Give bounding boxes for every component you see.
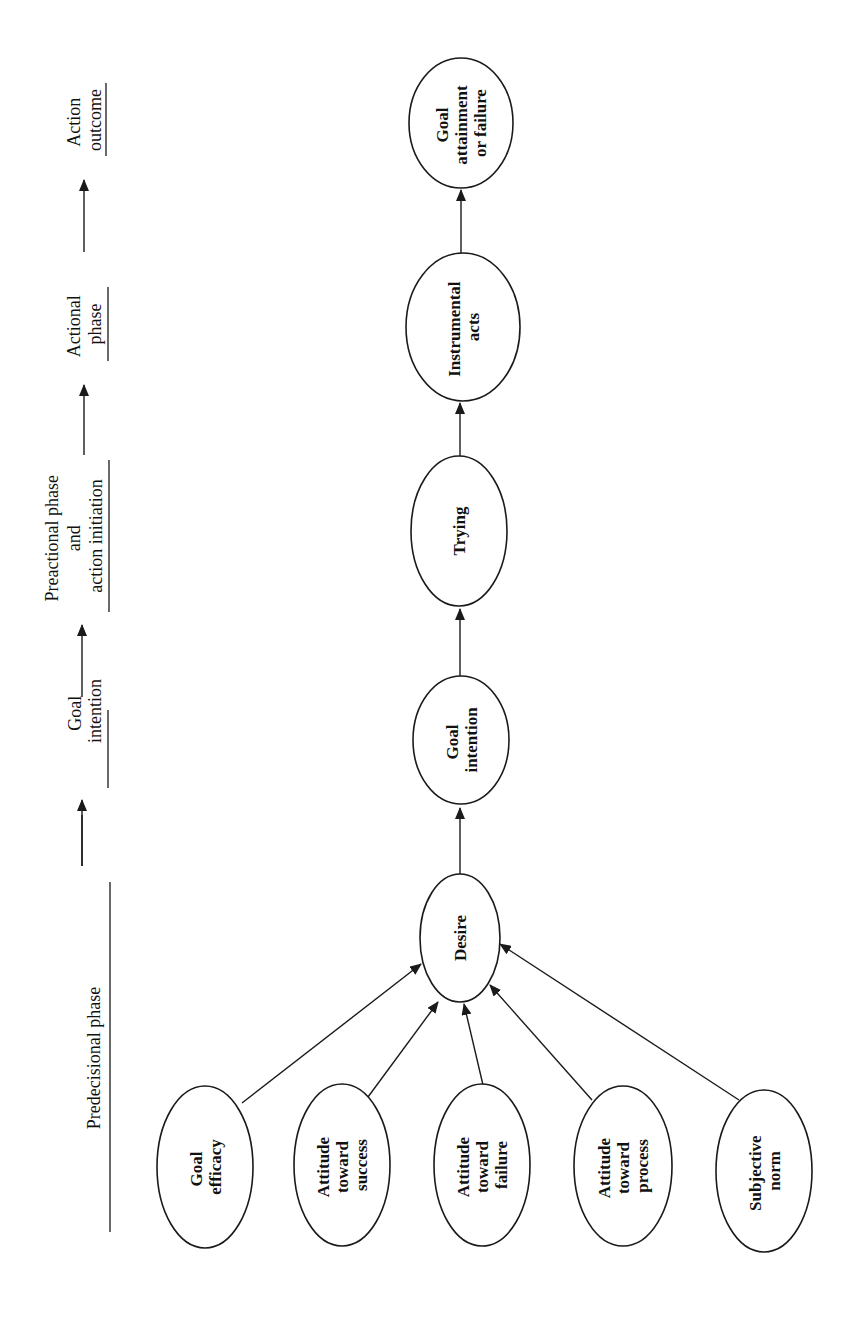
node-attitude-toward-success: Attitude toward success <box>294 1084 390 1246</box>
edge-subjective-norm-to-desire <box>500 944 739 1100</box>
node-goal-attainment: Goal attainment or failure <box>409 58 513 188</box>
phase-axis: Predecisional phase Goal intention Preac… <box>42 83 110 1232</box>
node-subjective-norm: Subjective norm <box>716 1090 812 1252</box>
goal-directed-behavior-diagram: Predecisional phase Goal intention Preac… <box>0 0 842 1325</box>
svg-text:Attitude toward su: Attitude toward success <box>314 1133 371 1198</box>
edge-attitude-failure-to-desire <box>464 1004 483 1085</box>
phase-actional: Actional phase <box>64 287 108 361</box>
phase-label-actional: Actional phase <box>64 291 105 357</box>
phase-preactional: Preactional phase and action initiation <box>42 460 109 612</box>
node-desire: Desire <box>420 874 500 1002</box>
phase-predecisional: Predecisional phase <box>84 882 110 1232</box>
phase-label-preactional: Preactional phase and action initiation <box>42 471 106 602</box>
node-goal-intention: Goal intention <box>413 676 509 804</box>
phase-label-goal-intention: Goal intention <box>65 679 105 743</box>
svg-text:Attitude toward fa: Attitude toward failure <box>454 1133 511 1198</box>
phase-label-predecisional: Predecisional phase <box>84 987 104 1129</box>
edge-attitude-success-to-desire <box>368 1002 438 1097</box>
phase-action-outcome: Action outcome <box>64 83 106 156</box>
phase-goal-intention: Goal intention <box>65 679 108 788</box>
svg-text:Attitude toward pr: Attitude toward process <box>595 1134 652 1199</box>
node-instrumental-acts: Instrumental acts <box>406 253 520 401</box>
node-goal-efficacy: Goal efficacy <box>157 1086 253 1248</box>
edge-attitude-process-to-desire <box>490 985 592 1100</box>
svg-text:Trying: Trying <box>450 506 469 555</box>
node-attitude-toward-process: Attitude toward process <box>574 1086 672 1246</box>
node-attitude-toward-failure: Attitude toward failure <box>434 1084 530 1246</box>
node-trying: Trying <box>411 456 507 606</box>
svg-text:Desire: Desire <box>451 915 470 961</box>
edge-goal-efficacy-to-desire <box>242 964 421 1103</box>
phase-label-action-outcome: Action outcome <box>64 89 105 151</box>
